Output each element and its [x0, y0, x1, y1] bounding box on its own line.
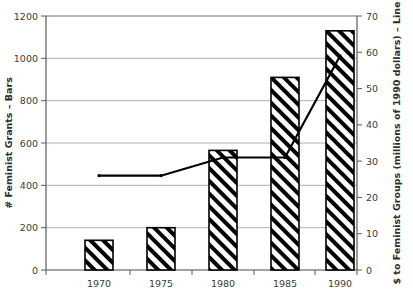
- line-point-1970: [97, 174, 100, 177]
- x-tick-1970: 1970: [87, 278, 111, 289]
- line-point-1980: [221, 156, 224, 159]
- bar-1970: [85, 240, 113, 270]
- left-axis-title: # Feminist Grants – Bars: [3, 77, 14, 209]
- x-tick-1980: 1980: [211, 278, 235, 289]
- right-tick-20: 20: [366, 192, 378, 203]
- right-tick-70: 70: [366, 11, 378, 22]
- chart-svg: 1200 1000 800 600 400 200 0 70 60 50 40 …: [0, 0, 413, 294]
- line-point-1990: [338, 54, 341, 57]
- chart-container: 1200 1000 800 600 400 200 0 70 60 50 40 …: [0, 0, 413, 294]
- left-tick-400: 400: [20, 180, 38, 191]
- bar-1990: [326, 31, 354, 270]
- line-point-1985: [283, 156, 286, 159]
- bar-1985: [271, 77, 299, 270]
- left-tick-0: 0: [32, 265, 38, 276]
- bar-1975: [147, 228, 175, 270]
- right-tick-0: 0: [366, 265, 372, 276]
- right-tick-30: 30: [366, 156, 378, 167]
- bar-1980: [209, 150, 237, 270]
- left-tick-1000: 1000: [14, 53, 38, 64]
- right-tick-50: 50: [366, 83, 378, 94]
- left-tick-1200: 1200: [14, 11, 38, 22]
- left-tick-600: 600: [20, 138, 38, 149]
- x-tick-1985: 1985: [273, 278, 297, 289]
- right-axis-title: $ to Feminist Groups (millions of 1990 d…: [391, 1, 402, 284]
- right-tick-40: 40: [366, 119, 378, 130]
- x-tick-1990: 1990: [328, 278, 352, 289]
- right-tick-60: 60: [366, 47, 378, 58]
- line-point-1975: [159, 174, 162, 177]
- left-tick-800: 800: [20, 95, 38, 106]
- left-tick-200: 200: [20, 222, 38, 233]
- right-tick-10: 10: [366, 228, 378, 239]
- x-tick-1975: 1975: [149, 278, 173, 289]
